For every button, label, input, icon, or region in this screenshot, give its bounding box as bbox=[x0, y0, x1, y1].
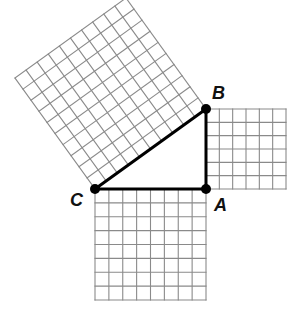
vertex-point-a bbox=[201, 184, 211, 194]
bottom-leg-square-grid bbox=[95, 189, 206, 300]
vertex-point-c bbox=[90, 184, 100, 194]
right-triangle bbox=[90, 104, 211, 194]
vertex-label-b: B bbox=[212, 84, 225, 102]
right-leg-square-grid bbox=[206, 109, 286, 189]
vertex-label-a: A bbox=[214, 196, 227, 214]
vertex-point-b bbox=[201, 104, 211, 114]
vertex-label-c: C bbox=[70, 191, 83, 209]
pythagorean-diagram bbox=[0, 0, 300, 315]
